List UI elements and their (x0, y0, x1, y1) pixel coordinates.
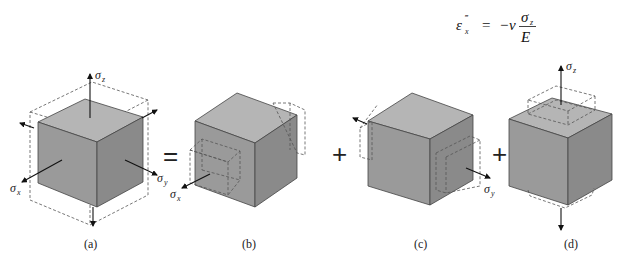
panel-a: σ z σ x σ y (a) (10, 68, 168, 251)
sigma-x-label: σ (170, 187, 177, 201)
equation-denominator: E (520, 29, 530, 45)
svg-text:x: x (16, 188, 21, 197)
svg-text:x: x (176, 194, 181, 203)
svg-text:z: z (572, 66, 577, 75)
sigma-y-neg-arrow (142, 110, 157, 118)
plus-operator-1: + (332, 139, 347, 169)
equation-lhs-sup: ‴ (465, 14, 469, 23)
equation-lhs-sub: x (464, 27, 469, 36)
equation-equals: = (482, 17, 490, 33)
caption-b: (b) (242, 237, 256, 251)
sigma-y-label: σ (157, 171, 164, 185)
equation-numerator-sub: z (529, 18, 534, 27)
sigma-z-label: σ (95, 68, 102, 82)
svg-text:y: y (490, 189, 495, 198)
equation: ε x ‴ = −ν σ z E (456, 9, 536, 45)
caption-d: (d) (564, 237, 578, 251)
svg-text:z: z (101, 75, 106, 84)
panel-c: σ y (c) (353, 93, 495, 251)
sigma-z-label: σ (566, 59, 573, 73)
panel-d: σ z (d) (509, 59, 612, 251)
equation-lhs: ε (456, 17, 462, 33)
superposition-diagram: ε x ‴ = −ν σ z E σ z σ x σ y (a) = (0, 0, 626, 265)
equals-operator: = (163, 141, 178, 171)
equation-rhs-prefix: −ν (499, 17, 516, 33)
panel-b: σ x (b) (170, 93, 305, 251)
sigma-x-label: σ (10, 181, 17, 195)
equation-numerator: σ (521, 9, 529, 25)
caption-a: (a) (84, 237, 97, 251)
sigma-y-label: σ (484, 182, 491, 196)
svg-text:y: y (163, 178, 168, 187)
sigma-x-neg-arrow (20, 123, 34, 128)
sigma-y-neg-arrow (353, 118, 367, 124)
plus-operator-2: + (492, 139, 507, 169)
caption-c: (c) (414, 237, 427, 251)
